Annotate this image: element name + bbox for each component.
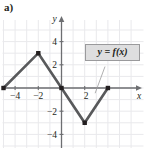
vertex-marker <box>1 86 5 90</box>
y-tick-label: 2 <box>52 60 57 70</box>
vertex-marker <box>106 86 110 90</box>
x-tick-label: −4 <box>10 91 20 101</box>
vertex-marker <box>59 86 63 90</box>
x-tick-label: 2 <box>84 91 89 101</box>
axis-lines <box>3 16 143 148</box>
gridlines <box>3 20 144 148</box>
y-axis-name: y <box>51 14 57 24</box>
figure-panel: a) −4−2242−2−4 xy y = f(x) <box>0 0 146 149</box>
y-tick-label: −4 <box>47 130 57 140</box>
vertex-marker <box>36 51 40 55</box>
y-tick-label: 4 <box>52 37 57 47</box>
y-tick-label: −2 <box>47 107 57 117</box>
coordinate-plot: −4−2242−2−4 xy <box>0 0 146 149</box>
x-axis-name: x <box>136 91 142 101</box>
x-tick-label: −2 <box>33 91 43 101</box>
legend-label: y = f(x) <box>97 47 127 57</box>
legend-box: y = f(x) <box>85 44 140 61</box>
vertex-marker <box>83 121 87 125</box>
